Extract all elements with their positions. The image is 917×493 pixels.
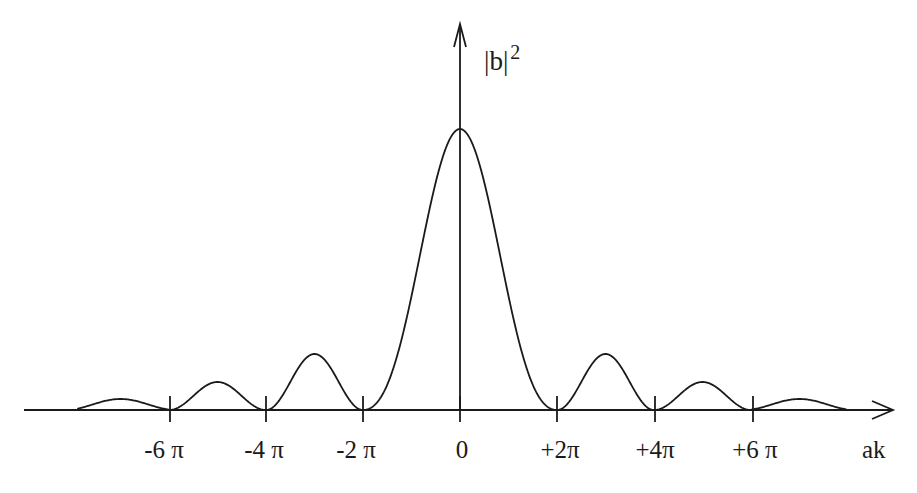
tick-label-plus-6pi: +6 π <box>732 437 777 462</box>
intensity-curve <box>78 129 846 410</box>
y-axis-exponent: 2 <box>510 41 520 63</box>
tick-label-minus-6pi: -6 π <box>144 437 184 462</box>
tick-label-minus-4pi: -4 π <box>244 437 284 462</box>
tick-label-plus-2pi: +2π <box>540 437 579 462</box>
tick-label-zero: 0 <box>456 437 469 462</box>
diffraction-diagram <box>0 0 917 493</box>
tick-marks <box>170 396 753 422</box>
x-axis-label: ak <box>862 437 886 462</box>
tick-label-minus-2pi: -2 π <box>336 437 376 462</box>
y-axis-label: |b|2 <box>484 48 520 75</box>
tick-label-plus-4pi: +4π <box>635 437 674 462</box>
